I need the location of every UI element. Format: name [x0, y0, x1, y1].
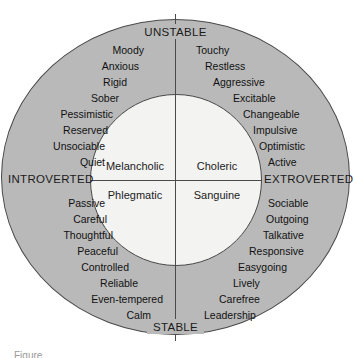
trait-word: Changeable [243, 109, 300, 120]
trait-word: Impulsive [253, 125, 297, 136]
vertical-axis-line [175, 14, 176, 341]
trait-word: Easygoing [238, 262, 287, 273]
trait-word: Peaceful [77, 246, 118, 257]
trait-word: Touchy [196, 45, 229, 56]
trait-word: Responsive [249, 246, 304, 257]
trait-word: Moody [112, 45, 144, 56]
trait-word: Lively [233, 278, 260, 289]
temperament-sanguine: Sanguine [180, 189, 254, 201]
trait-word: Controlled [81, 262, 129, 273]
trait-word: Unsociable [53, 141, 105, 152]
axis-label-stable: STABLE [0, 321, 351, 333]
trait-word: Anxious [102, 61, 139, 72]
trait-word: Careful [73, 214, 107, 225]
temperament-melancholic: Melancholic [98, 160, 172, 172]
temperament-choleric: Choleric [180, 160, 254, 172]
trait-word: Excitable [233, 93, 276, 104]
trait-word: Passive [68, 198, 105, 209]
temperament-phlegmatic: Phlegmatic [98, 189, 172, 201]
axis-label-extroverted: EXTROVERTED [264, 173, 353, 185]
trait-word: Talkative [263, 230, 304, 241]
trait-word: Thoughtful [63, 230, 113, 241]
trait-word: Outgoing [266, 214, 309, 225]
trait-word: Leadership [204, 310, 256, 321]
axis-label-introverted: INTROVERTED [8, 173, 94, 185]
trait-word: Rigid [103, 77, 127, 88]
trait-word: Optimistic [259, 141, 305, 152]
trait-word: Sociable [268, 198, 308, 209]
figure-caption-partial: Figure [14, 350, 134, 358]
trait-word: Sober [91, 93, 119, 104]
trait-word: Reliable [100, 278, 138, 289]
trait-word: Pessimistic [60, 109, 113, 120]
trait-word: Even-tempered [91, 294, 163, 305]
trait-word: Calm [126, 310, 151, 321]
trait-word: Reserved [63, 125, 108, 136]
trait-word: Aggressive [213, 77, 265, 88]
trait-word: Restless [205, 61, 245, 72]
trait-word: Carefree [219, 294, 260, 305]
trait-word: Active [268, 157, 297, 168]
axis-label-unstable: UNSTABLE [0, 26, 351, 38]
trait-word: Quiet [80, 157, 105, 168]
